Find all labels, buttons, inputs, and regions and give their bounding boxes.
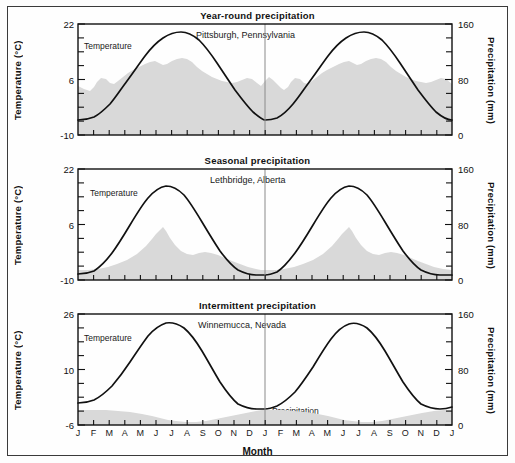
month-tick-label: J xyxy=(447,428,457,438)
month-tick-label: S xyxy=(198,428,208,438)
month-tick-label: J xyxy=(167,428,177,438)
month-tick-label: O xyxy=(213,428,223,438)
month-tick-label: A xyxy=(307,428,317,438)
month-tick-label: M xyxy=(322,428,332,438)
month-tick-label: F xyxy=(276,428,286,438)
x-axis-title: Month xyxy=(0,446,515,457)
panel-3-left-ticks xyxy=(78,314,85,425)
month-tick-label: O xyxy=(400,428,410,438)
month-tick-label: M xyxy=(291,428,301,438)
month-tick-label: S xyxy=(385,428,395,438)
panel-2-plot xyxy=(0,155,515,285)
month-tick-label: J xyxy=(354,428,364,438)
panel-year-round: Year-round precipitation Temperature (°C… xyxy=(0,10,515,140)
month-tick-label: A xyxy=(182,428,192,438)
month-tick-label: A xyxy=(369,428,379,438)
panel-2-left-ticks xyxy=(78,169,85,280)
month-tick-label: D xyxy=(431,428,441,438)
month-tick-label: A xyxy=(120,428,130,438)
month-tick-label: N xyxy=(229,428,239,438)
month-label-row: JFMAMJJASONDJFMAMJJASONDJ xyxy=(0,428,515,442)
month-tick-label: J xyxy=(73,428,83,438)
panel-2-right-ticks xyxy=(445,169,452,280)
month-tick-label: F xyxy=(89,428,99,438)
month-tick-label: D xyxy=(244,428,254,438)
month-tick-label: J xyxy=(338,428,348,438)
panel-1-plot xyxy=(0,10,515,140)
month-tick-label: N xyxy=(416,428,426,438)
month-tick-label: M xyxy=(104,428,114,438)
month-tick-label: J xyxy=(260,428,270,438)
panel-seasonal: Seasonal precipitation Temperature (°C) … xyxy=(0,155,515,285)
panel-intermittent: Intermittent precipitation Temperature (… xyxy=(0,300,515,460)
climate-diagram-figure: Year-round precipitation Temperature (°C… xyxy=(0,0,515,463)
month-tick-label: J xyxy=(151,428,161,438)
month-tick-label: M xyxy=(135,428,145,438)
